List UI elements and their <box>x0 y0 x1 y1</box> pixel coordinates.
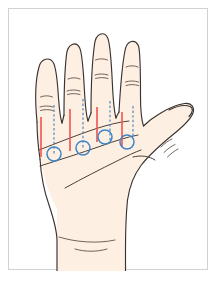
hand-silhouette <box>36 34 194 271</box>
thumb-crease-c <box>168 149 179 157</box>
hand-diagram <box>9 9 209 271</box>
figure-frame <box>8 8 208 270</box>
thumb-crease-b <box>164 145 175 153</box>
hand-body-fill <box>36 34 194 271</box>
